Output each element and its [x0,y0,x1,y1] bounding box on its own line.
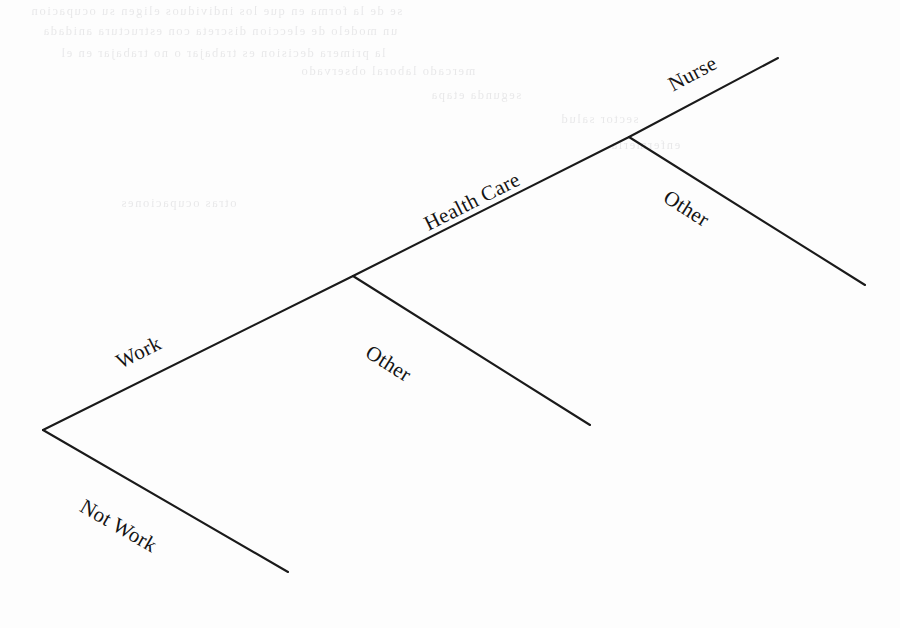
branch-line-work [43,276,353,430]
branch-line-health-care [353,137,629,276]
branch-line-not-work [43,430,288,572]
diagram-canvas: se de la forma en que los individuos eli… [0,0,900,628]
branch-line-health-care-other [629,137,865,285]
